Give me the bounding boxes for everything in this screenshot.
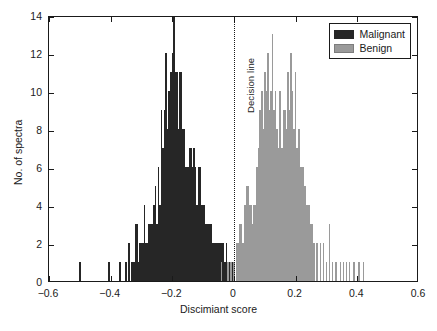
x-tick-label: 0.2	[287, 287, 302, 299]
histogram-bar-benign	[346, 262, 348, 281]
histogram-bar-benign	[313, 243, 315, 281]
histogram-bar-benign	[343, 262, 345, 281]
histogram-bar-benign	[349, 262, 351, 281]
legend-swatch-malignant	[334, 30, 354, 39]
histogram-bar-benign	[227, 262, 229, 281]
y-tick-label: 10	[0, 86, 42, 98]
decision-line	[234, 17, 235, 281]
y-tick-right	[412, 131, 417, 132]
x-tick-top	[49, 17, 50, 22]
histogram-bar-malignant	[79, 262, 81, 281]
legend-item-malignant: Malignant	[334, 27, 405, 41]
y-tick-label: 0	[0, 276, 42, 288]
histogram-bar-benign	[363, 262, 365, 281]
x-tick-top	[111, 17, 112, 22]
histogram-bar-benign	[230, 262, 232, 281]
histogram-bar-malignant	[128, 243, 130, 281]
histogram-bar-benign	[329, 224, 331, 281]
y-tick-right	[412, 169, 417, 170]
x-axis-title: Discimiant score	[0, 303, 437, 315]
legend-label-malignant: Malignant	[359, 28, 405, 40]
y-tick-label: 12	[0, 48, 42, 60]
legend: Malignant Benign	[329, 23, 411, 59]
histogram-bar-benign	[221, 262, 223, 281]
histogram-figure: No. of spectra 02468101214 Decision line…	[0, 0, 437, 331]
histogram-bar-benign	[316, 243, 318, 281]
y-tick-label: 2	[0, 238, 42, 250]
x-tick-label: 0.6	[411, 287, 426, 299]
y-tick	[49, 245, 54, 246]
histogram-bar-benign	[326, 262, 328, 281]
x-tick-label: 0	[230, 287, 236, 299]
x-tick-top	[296, 17, 297, 22]
legend-swatch-benign	[334, 44, 354, 53]
x-tick	[357, 276, 358, 281]
y-tick-right	[412, 55, 417, 56]
y-tick	[49, 169, 54, 170]
y-tick-right	[412, 207, 417, 208]
decision-line-label: Decision line	[245, 58, 256, 113]
x-tick-label: −0.6	[38, 287, 59, 299]
histogram-bar-malignant	[108, 262, 110, 281]
x-tick-top	[357, 17, 358, 22]
y-tick-right	[412, 93, 417, 94]
x-tick	[296, 276, 297, 281]
histogram-bar-benign	[335, 262, 337, 281]
y-tick	[49, 131, 54, 132]
histogram-bar-benign	[340, 262, 342, 281]
y-tick-label: 14	[0, 10, 42, 22]
y-tick	[49, 93, 54, 94]
histogram-bar-benign	[320, 243, 322, 281]
y-tick-label: 4	[0, 200, 42, 212]
y-tick-right	[412, 17, 417, 18]
x-tick	[49, 276, 50, 281]
legend-label-benign: Benign	[359, 42, 392, 54]
y-tick-label: 8	[0, 124, 42, 136]
y-tick-right	[412, 245, 417, 246]
x-tick	[111, 276, 112, 281]
x-tick	[172, 276, 173, 281]
x-tick-label: −0.4	[99, 287, 120, 299]
plot-area: Decision line Malignant Benign	[48, 16, 418, 282]
histogram-bar-benign	[332, 262, 334, 281]
x-tick-label: −0.2	[161, 287, 182, 299]
y-tick-label: 6	[0, 162, 42, 174]
y-tick	[49, 55, 54, 56]
x-tick-top	[172, 17, 173, 22]
histogram-bar-malignant	[125, 262, 127, 281]
histogram-bar-benign	[353, 262, 355, 281]
y-tick	[49, 207, 54, 208]
x-tick-label: 0.4	[349, 287, 364, 299]
legend-item-benign: Benign	[334, 41, 405, 55]
histogram-bar-benign	[323, 243, 325, 281]
histogram-bar-malignant	[119, 262, 121, 281]
